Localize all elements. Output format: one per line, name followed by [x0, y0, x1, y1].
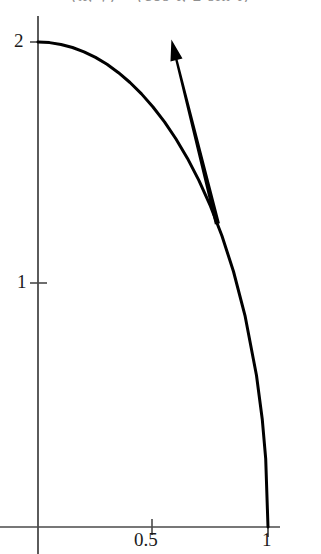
tangent-direction-arrow: [170, 40, 219, 225]
x-axis-tick-label-half: 0.5: [134, 530, 158, 549]
x-axis-tick-label-one: 1: [262, 530, 272, 549]
plot-svg: [0, 0, 321, 554]
ellipse-curve: [38, 42, 268, 527]
y-axis-tick-label-1: 1: [17, 272, 27, 291]
y-axis-tick-label-2: 2: [14, 31, 24, 50]
figure-canvas: (x, y) = (cos t, 2 sin t) 2 1 0.5 1: [0, 0, 321, 554]
